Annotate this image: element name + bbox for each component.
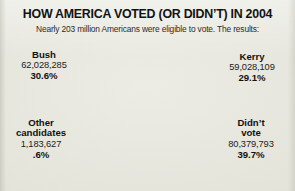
callout-other-candidates-percent: .6% (2, 150, 80, 161)
pie-chart (84, 44, 220, 184)
callout-bush: Bush 62,028,285 30.6% (4, 50, 84, 82)
callout-kerry: Kerry 59,028,109 29.1% (212, 52, 292, 84)
callout-kerry-percent: 29.1% (212, 73, 292, 84)
page-title: HOW AMERICA VOTED (OR DIDN’T) IN 2004 (0, 7, 295, 21)
callout-didnt-vote-percent: 39.7% (210, 150, 292, 161)
callout-didnt-vote-label-line2: vote (210, 128, 292, 138)
callout-other-candidates-label-line2: candidates (2, 128, 80, 138)
callout-kerry-label: Kerry (212, 52, 292, 62)
callout-bush-percent: 30.6% (4, 71, 84, 82)
page-subtitle: Nearly 203 million Americans were eligib… (0, 24, 295, 34)
callout-didnt-vote: Didn’t vote 80,379,793 39.7% (210, 118, 292, 160)
callout-bush-label: Bush (4, 50, 84, 60)
callout-other-candidates: Other candidates 1,183,627 .6% (2, 118, 80, 160)
pie-chart-svg (84, 44, 220, 184)
infographic-poster: HOW AMERICA VOTED (OR DIDN’T) IN 2004 Ne… (0, 0, 295, 191)
